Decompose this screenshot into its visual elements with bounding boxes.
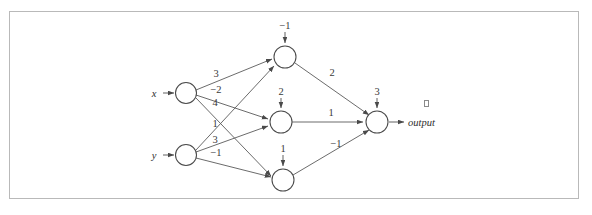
- weight-label-x-h1: 3: [213, 68, 218, 79]
- node-hidden-h3[interactable]: [272, 169, 294, 191]
- bias-label-h1: −1: [279, 20, 290, 31]
- label-input-x: x: [151, 88, 157, 99]
- weight-label-y-h3: −1: [210, 147, 221, 158]
- label-input-y: y: [151, 150, 157, 161]
- weight-label-y-h1: 1: [212, 118, 217, 129]
- edge-y-h3: [196, 158, 271, 177]
- bias-label-h2: 2: [278, 86, 283, 97]
- weight-label-x-h3: 4: [212, 97, 218, 108]
- node-input-x[interactable]: [176, 83, 197, 104]
- weight-label-h3-out: −1: [330, 138, 341, 149]
- edge-h3-out: [293, 130, 369, 175]
- node-hidden-h2[interactable]: [270, 111, 292, 133]
- weight-label-y-h2: 3: [212, 134, 217, 145]
- edge-x-h1: [196, 59, 272, 90]
- node-output[interactable]: [366, 111, 388, 133]
- edge-x-h2: [196, 95, 268, 119]
- edge-y-h1: [196, 66, 274, 150]
- bias-label-output: 3: [374, 86, 379, 97]
- node-hidden-h1[interactable]: [274, 46, 296, 68]
- network-diagram: x y output −1 2 1 3 3 −2 4 1 3 −1 2 1 −1: [0, 0, 592, 215]
- node-input-y[interactable]: [176, 145, 197, 166]
- weight-label-x-h2: −2: [210, 84, 221, 95]
- weight-label-h1-out: 2: [329, 67, 334, 78]
- bias-label-h3: 1: [280, 143, 285, 154]
- diagram-page: x y output −1 2 1 3 3 −2 4 1 3 −1 2 1 −1: [0, 0, 592, 215]
- missing-glyph-box: [424, 100, 429, 107]
- weight-label-h2-out: 1: [328, 107, 333, 118]
- label-output: output: [408, 117, 436, 128]
